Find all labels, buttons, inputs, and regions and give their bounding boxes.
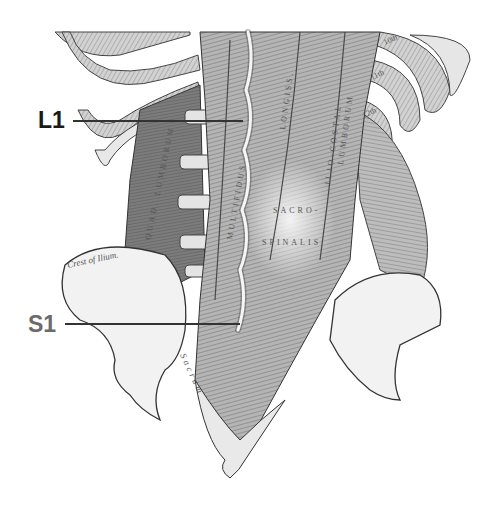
label-spinalis: SPINALIS — [262, 238, 321, 247]
l1-leader-line — [73, 120, 243, 122]
ilium-right — [330, 273, 441, 400]
highlight — [245, 160, 335, 280]
s1-level-label: S1 — [28, 313, 56, 336]
l1-level-label: L1 — [38, 109, 65, 132]
lower-back-anatomy-illustration: MULTIFIDUS LONGISS. ILIO-COSTAL LUMBORUM… — [0, 0, 478, 510]
label-sacro: SACRO- — [273, 206, 320, 215]
ilium-left — [62, 247, 186, 420]
s1-leader-line — [65, 323, 240, 325]
